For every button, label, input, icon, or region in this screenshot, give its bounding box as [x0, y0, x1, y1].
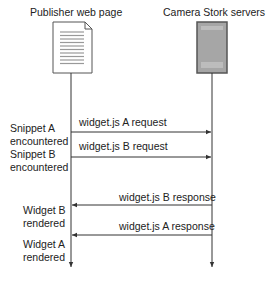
event-snippet-a: Snippet A encountered	[10, 122, 68, 148]
event-widget-a: Widget A rendered	[23, 238, 65, 264]
event-line: Snippet A	[10, 122, 68, 135]
message-label-b-request: widget.js B request	[79, 140, 168, 152]
event-snippet-b: Snippet B encountered	[10, 148, 68, 174]
event-line: encountered	[10, 161, 68, 174]
participant-label-server: Camera Stork servers	[163, 6, 265, 18]
event-line: rendered	[23, 217, 66, 230]
event-line: Widget B	[23, 204, 66, 217]
message-label-a-response: widget.js A response	[119, 220, 215, 232]
event-line: encountered	[10, 135, 68, 148]
event-line: rendered	[23, 251, 65, 264]
participant-label-publisher: Publisher web page	[30, 6, 122, 18]
message-label-a-request: widget.js A request	[79, 116, 167, 128]
event-line: Snippet B	[10, 148, 68, 161]
message-label-b-response: widget.js B response	[119, 191, 216, 203]
event-widget-b: Widget B rendered	[23, 204, 66, 230]
document-icon	[53, 22, 92, 73]
event-line: Widget A	[23, 238, 65, 251]
server-icon	[197, 22, 227, 73]
